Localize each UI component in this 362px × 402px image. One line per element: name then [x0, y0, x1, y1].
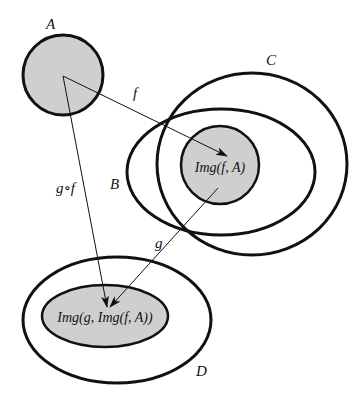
- set-a-circle: [23, 35, 103, 115]
- label-f: f: [133, 85, 139, 101]
- label-g: g: [155, 235, 163, 251]
- label-c: C: [266, 52, 277, 68]
- function-composition-diagram: A C B D f g g∘f Img(f, A) Img(g, Img(f, …: [0, 0, 362, 402]
- label-g-compose-f: g∘f: [56, 180, 77, 196]
- label-img-g-img-f-a: Img(g, Img(f, A)): [56, 310, 153, 326]
- label-a: A: [45, 16, 56, 32]
- arrow-g: [110, 188, 218, 307]
- label-d: D: [195, 363, 207, 379]
- label-img-f-a: Img(f, A): [194, 160, 246, 176]
- label-b: B: [110, 176, 119, 192]
